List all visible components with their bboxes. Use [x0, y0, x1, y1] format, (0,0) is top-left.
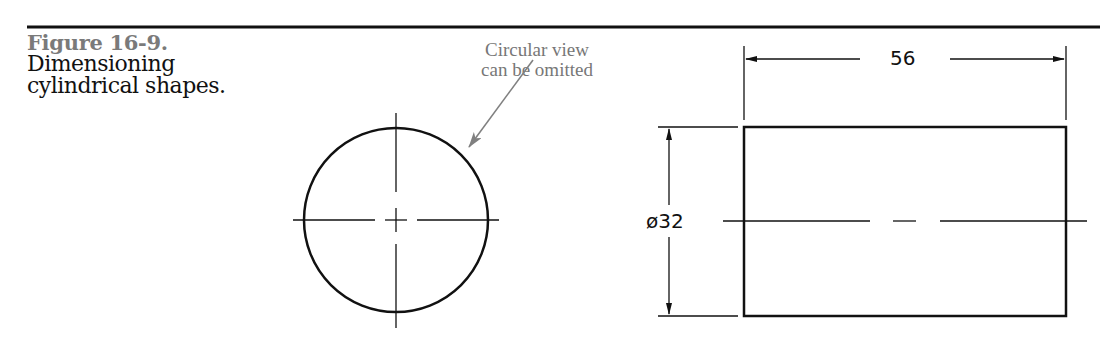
circle-centerlines	[293, 113, 499, 328]
callout-leader-arrow	[469, 60, 533, 147]
rectangular-view	[723, 127, 1087, 316]
circular-view	[293, 113, 499, 328]
technical-drawing	[0, 0, 1104, 344]
diameter-dimension-value: ø32	[646, 211, 684, 231]
length-dimension-value: 56	[890, 48, 915, 68]
